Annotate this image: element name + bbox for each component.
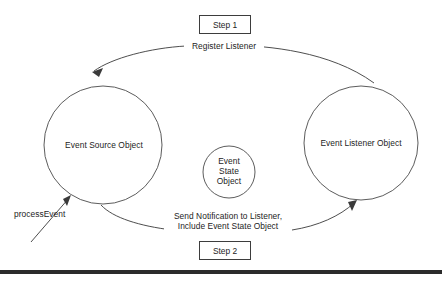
event-state-label-line3: Object xyxy=(205,176,253,186)
event-delegation-diagram: Event Source Object Event Listener Objec… xyxy=(0,0,442,281)
send-notification-curve-left xyxy=(101,205,172,230)
process-event-label: processEvent xyxy=(14,209,65,219)
register-listener-arrowhead xyxy=(92,68,103,77)
event-source-label: Event Source Object xyxy=(56,140,152,150)
step-1-label: Step 1 xyxy=(213,20,237,30)
event-state-label-line2: State xyxy=(205,166,253,176)
send-notification-label-line2: Include Event State Object xyxy=(164,221,292,231)
process-event-arrowhead xyxy=(63,195,71,206)
step-1-box: Step 1 xyxy=(199,15,251,34)
send-notification-curve-right xyxy=(292,203,354,230)
event-listener-label: Event Listener Object xyxy=(309,138,413,148)
send-notification-arrowhead xyxy=(348,200,357,211)
footer-divider xyxy=(0,270,442,274)
step-2-label: Step 2 xyxy=(213,246,237,256)
step-2-box: Step 2 xyxy=(199,241,251,260)
event-state-label-line1: Event xyxy=(205,156,253,166)
register-listener-label: Register Listener xyxy=(184,41,264,51)
register-listener-curve-left xyxy=(94,46,186,71)
process-event-line xyxy=(31,198,69,242)
send-notification-label-line1: Send Notification to Listener, xyxy=(164,211,292,221)
